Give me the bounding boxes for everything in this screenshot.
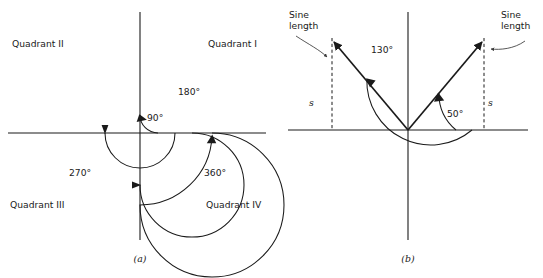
- label-90-degrees: 90°: [147, 112, 163, 123]
- sine-length-left-label-line1: Sine: [289, 9, 309, 20]
- sine-length-right-label-line1: Sine: [501, 9, 521, 20]
- label-180-degrees: 180°: [178, 86, 200, 97]
- label-quadrant-3: Quadrant III: [10, 199, 64, 210]
- label-quadrant-4: Quadrant IV: [206, 199, 262, 210]
- sine-symbol-right: s: [488, 97, 493, 108]
- panel-a: 90° 180° 270° 360° Quadrant I Quadrant I…: [8, 12, 284, 277]
- panel-b-caption: (b): [401, 253, 415, 264]
- figure-root: 90° 180° 270° 360° Quadrant I Quadrant I…: [0, 0, 543, 278]
- arc-90-arrowhead: [134, 112, 147, 123]
- panel-b: Sine length Sine length s s 130° 50° (b): [288, 9, 530, 264]
- sine-length-right-label-line2: length: [501, 20, 530, 31]
- panel-a-arc-180: [102, 125, 175, 168]
- sine-symbol-left: s: [309, 97, 314, 108]
- label-quadrant-1: Quadrant I: [208, 38, 257, 49]
- sine-length-left-leader: [296, 36, 327, 57]
- label-360-degrees: 360°: [204, 167, 226, 178]
- label-50-degrees: 50°: [447, 108, 463, 119]
- panel-a-caption: (a): [134, 253, 147, 264]
- sine-length-right-leader: [491, 41, 525, 49]
- label-130-degrees: 130°: [371, 44, 393, 55]
- sine-length-left-label-line2: length: [289, 20, 318, 31]
- label-quadrant-2: Quadrant II: [12, 38, 64, 49]
- figure-canvas: 90° 180° 270° 360° Quadrant I Quadrant I…: [0, 0, 543, 278]
- label-270-degrees: 270°: [69, 167, 91, 178]
- panel-a-arc-270: [132, 133, 244, 237]
- arc-270-curve: [140, 133, 244, 237]
